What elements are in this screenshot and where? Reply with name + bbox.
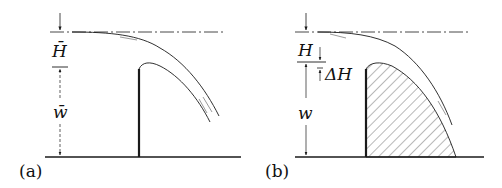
panel-a: H̄ w̄ (a): [19, 13, 241, 181]
upper-nappe: [72, 32, 219, 116]
height-label: w: [298, 103, 313, 123]
panel-caption: (a): [19, 161, 42, 181]
delta-head-label: ΔH: [324, 64, 353, 84]
lower-nappe: [139, 63, 210, 122]
head-label: H: [297, 40, 314, 60]
height-label: w̄: [53, 102, 68, 122]
hatched-profile: [366, 63, 456, 157]
panel-caption: (b): [265, 161, 289, 181]
weir-diagram: H̄ w̄ (a) H ΔH w: [0, 0, 502, 188]
panel-b: H ΔH w (b): [265, 13, 484, 181]
head-label: H̄: [51, 40, 68, 61]
